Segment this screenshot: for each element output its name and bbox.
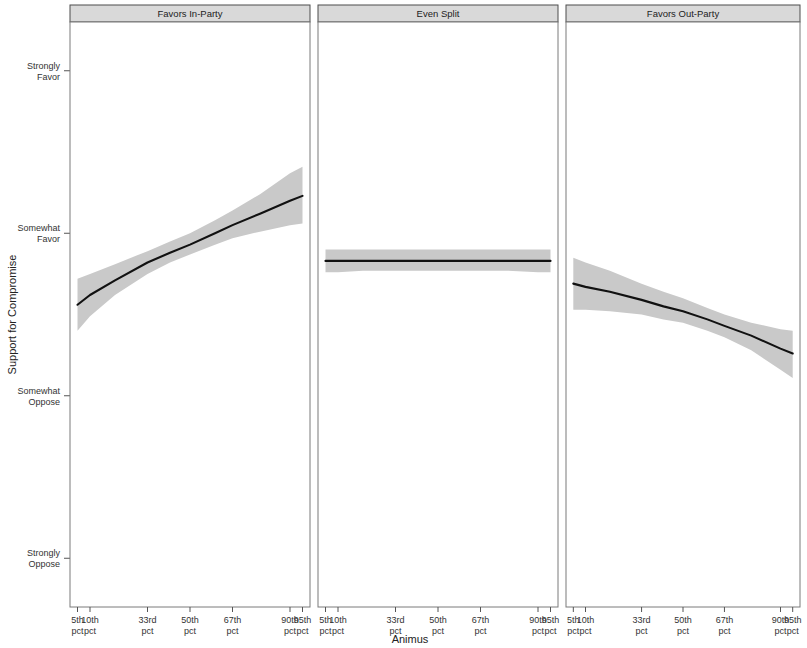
x-tick-label-bottom: pct [84, 626, 97, 636]
y-axis-title: Support for Compromise [6, 255, 18, 375]
y-tick-label-top: Somewhat [17, 223, 60, 233]
panel-strip-label: Favors In-Party [158, 8, 223, 19]
y-tick-label-bottom: Favor [37, 72, 60, 82]
x-tick-label-bottom: pct [774, 626, 787, 636]
x-tick-label-top: 95th [542, 615, 560, 625]
x-tick-label-bottom: pct [319, 626, 332, 636]
panel-body [318, 22, 558, 607]
y-tick-label-bottom: Oppose [28, 559, 60, 569]
x-tick-label-bottom: pct [71, 626, 84, 636]
x-tick-label-top: 95th [784, 615, 802, 625]
x-tick-label-bottom: pct [141, 626, 154, 636]
x-tick-label-top: 33rd [386, 615, 404, 625]
x-tick-label-bottom: pct [787, 626, 800, 636]
panel-3: Favors Out-Party5thpct10thpct33rdpct50th… [566, 5, 801, 636]
x-tick-label-top: 33rd [138, 615, 156, 625]
x-tick-label-bottom: pct [284, 626, 297, 636]
chart-canvas: StronglyFavorSomewhatFavorSomewhatOppose… [0, 0, 807, 648]
x-tick-label-top: 67th [472, 615, 490, 625]
x-tick-label-top: 50th [429, 615, 447, 625]
x-tick-label-top: 50th [674, 615, 692, 625]
panel-strip-label: Even Split [417, 8, 460, 19]
y-tick-label-top: Somewhat [17, 386, 60, 396]
x-tick-label-bottom: pct [532, 626, 545, 636]
x-tick-label-bottom: pct [296, 626, 309, 636]
x-axis-title: Animus [392, 633, 429, 645]
panel-1: Favors In-Party5thpct10thpct33rdpct50thp… [70, 5, 311, 636]
x-tick-label-top: 33rd [633, 615, 651, 625]
x-tick-label-bottom: pct [544, 626, 557, 636]
x-tick-label-top: 10th [577, 615, 595, 625]
x-tick-label-top: 50th [181, 615, 199, 625]
x-tick-label-top: 10th [81, 615, 99, 625]
y-tick-label-top: Strongly [27, 548, 61, 558]
x-tick-label-bottom: pct [474, 626, 487, 636]
x-tick-label-bottom: pct [579, 626, 592, 636]
panel-body [70, 22, 310, 607]
x-tick-label-bottom: pct [226, 626, 239, 636]
x-tick-label-top: 10th [329, 615, 347, 625]
x-tick-label-bottom: pct [184, 626, 197, 636]
y-tick-label-bottom: Oppose [28, 397, 60, 407]
x-tick-label-bottom: pct [677, 626, 690, 636]
panel-strip-label: Favors Out-Party [647, 8, 720, 19]
x-tick-label-bottom: pct [718, 626, 731, 636]
x-tick-label-bottom: pct [636, 626, 649, 636]
x-tick-label-top: 67th [716, 615, 734, 625]
panel-2: Even Split5thpct10thpct33rdpct50thpct67t… [318, 5, 559, 636]
x-tick-label-bottom: pct [567, 626, 580, 636]
x-tick-label-top: 67th [224, 615, 242, 625]
x-tick-label-top: 95th [294, 615, 312, 625]
y-tick-label-top: Strongly [27, 61, 61, 71]
facet-chart-figure: StronglyFavorSomewhatFavorSomewhatOppose… [0, 0, 807, 648]
x-tick-label-bottom: pct [432, 626, 445, 636]
y-tick-label-bottom: Favor [37, 234, 60, 244]
x-tick-label-bottom: pct [332, 626, 345, 636]
